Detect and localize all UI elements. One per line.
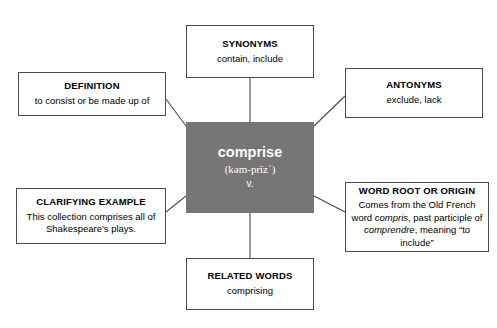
concept-map-diagram: comprise (kəm-prīz´) v. SYNONYMS contain… xyxy=(0,0,497,328)
node-word-root-or-origin: WORD ROOT OR ORIGIN Comes from the Old F… xyxy=(345,182,489,252)
node-antonyms-title: ANTONYMS xyxy=(386,79,441,91)
node-related-words: RELATED WORDS comprising xyxy=(186,258,314,310)
pronunciation-text: (kəm-prīz´) xyxy=(225,163,276,177)
node-definition-title: DEFINITION xyxy=(64,80,119,92)
connector-clarifying-example xyxy=(166,196,186,212)
word-root-italic-compris: compris xyxy=(375,212,408,223)
node-related-words-body: comprising xyxy=(227,285,273,298)
node-clarifying-example: CLARIFYING EXAMPLE This collection compr… xyxy=(16,188,166,244)
connector-definition xyxy=(166,99,186,126)
center-word-box: comprise (kəm-prīz´) v. xyxy=(186,122,314,213)
node-related-words-title: RELATED WORDS xyxy=(207,270,292,282)
node-clarifying-example-body: This collection comprises all of Shakesp… xyxy=(22,211,160,236)
node-synonyms: SYNONYMS contain, include xyxy=(186,25,314,78)
node-synonyms-title: SYNONYMS xyxy=(222,38,278,50)
word-root-italic-comprendre: comprendre xyxy=(364,224,415,235)
headword-text: comprise xyxy=(218,145,282,161)
node-definition-body: to consist or be made up of xyxy=(35,95,150,108)
node-word-root-body: Comes from the Old French word compris, … xyxy=(351,199,483,249)
word-root-middle: , past participle of xyxy=(408,212,482,223)
node-word-root-title: WORD ROOT OR ORIGIN xyxy=(359,185,475,197)
connector-antonyms xyxy=(314,96,345,126)
part-of-speech-text: v. xyxy=(246,178,253,190)
node-definition: DEFINITION to consist or be made up of xyxy=(18,72,166,116)
node-antonyms-body: exclude, lack xyxy=(387,94,442,107)
connector-word-root xyxy=(314,196,345,212)
node-synonyms-body: contain, include xyxy=(217,53,283,66)
node-clarifying-example-title: CLARIFYING EXAMPLE xyxy=(36,196,145,208)
node-antonyms: ANTONYMS exclude, lack xyxy=(345,68,483,118)
